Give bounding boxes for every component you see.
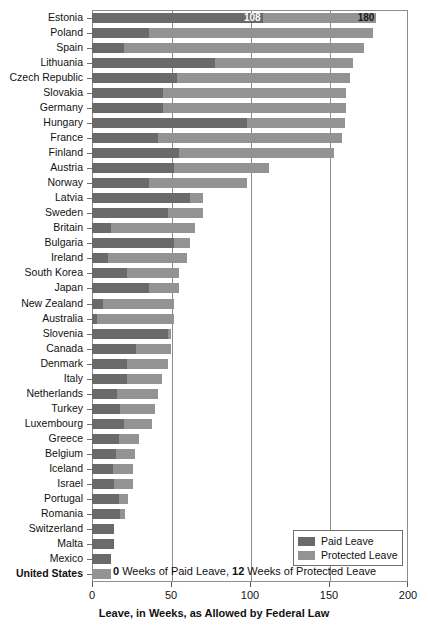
- legend-item-paid-leave: Paid Leave: [298, 534, 398, 548]
- bar-segment-paid: [92, 434, 119, 444]
- bar-segment-paid: [92, 73, 177, 83]
- table-row: [92, 43, 408, 53]
- bar-segment-paid: [92, 494, 119, 504]
- value-tick-label-200: 200: [399, 589, 417, 601]
- bar-segment-paid: [92, 283, 149, 293]
- category-label-united-states: United States: [16, 568, 83, 579]
- legend-swatch-paid-icon: [298, 537, 315, 546]
- bar-segment-paid: [92, 449, 116, 459]
- table-row: 108180: [92, 13, 408, 23]
- category-label-australia: Australia: [42, 313, 83, 324]
- bar-segment-paid: [92, 268, 127, 278]
- bar-segment-paid: [92, 253, 108, 263]
- table-row: [92, 193, 408, 203]
- value-tick-mark: [92, 582, 93, 587]
- bar-segment-paid: [92, 58, 215, 68]
- table-row: [92, 28, 408, 38]
- category-label-britain: Britain: [53, 222, 83, 233]
- us-protected-weeks-value: 12: [232, 565, 244, 577]
- legend-item-protected-leave: Protected Leave: [298, 548, 398, 562]
- category-label-new-zealand: New Zealand: [21, 298, 83, 309]
- bar-segment-protected: [92, 43, 364, 53]
- table-row: [92, 479, 408, 489]
- value-tick-mark: [250, 582, 251, 587]
- table-row: [92, 268, 408, 278]
- bar-segment-protected: [92, 299, 174, 309]
- bar-segment-paid: [92, 374, 127, 384]
- bar-segment-paid: [92, 88, 163, 98]
- value-axis-ticks: [92, 582, 408, 588]
- table-row: [92, 253, 408, 263]
- value-tick-mark: [329, 582, 330, 587]
- category-label-netherlands: Netherlands: [26, 388, 83, 399]
- category-label-norway: Norway: [47, 177, 83, 188]
- category-label-slovakia: Slovakia: [43, 87, 83, 98]
- category-label-italy: Italy: [64, 373, 83, 384]
- bar-segment-paid: [92, 223, 111, 233]
- bar-segment-paid: [92, 419, 124, 429]
- table-row: [92, 419, 408, 429]
- table-row: [92, 73, 408, 83]
- bars-container: 108180: [92, 10, 408, 582]
- table-row: [92, 329, 408, 339]
- category-label-germany: Germany: [40, 102, 83, 113]
- legend: Paid Leave Protected Leave: [293, 530, 403, 566]
- category-label-switzerland: Switzerland: [29, 523, 83, 534]
- bar-segment-paid: [92, 133, 158, 143]
- bar-segment-paid: [92, 479, 114, 489]
- table-row: [92, 118, 408, 128]
- category-label-bulgaria: Bulgaria: [44, 237, 83, 248]
- united-states-annotation: 0 Weeks of Paid Leave, 12 Weeks of Prote…: [113, 565, 376, 577]
- table-row: [92, 314, 408, 324]
- category-label-romania: Romania: [41, 508, 83, 519]
- table-row: [92, 359, 408, 369]
- bar-segment-paid: [92, 359, 127, 369]
- table-row: [92, 223, 408, 233]
- bar-segment-paid: [92, 329, 168, 339]
- bar-segment-paid: [92, 13, 263, 23]
- legend-swatch-protected-icon: [298, 551, 315, 560]
- table-row: [92, 148, 408, 158]
- bar-segment-paid: [92, 344, 136, 354]
- category-label-lithuania: Lithuania: [40, 57, 83, 68]
- table-row: [92, 103, 408, 113]
- bar-segment-paid: [92, 554, 111, 564]
- category-label-ireland: Ireland: [51, 252, 83, 263]
- category-label-south-korea: South Korea: [25, 267, 83, 278]
- bar-segment-paid: [92, 178, 149, 188]
- bar-segment-paid: [92, 118, 247, 128]
- bar-segment-paid: [92, 208, 168, 218]
- bar-value-label-paid: 108: [244, 13, 263, 23]
- category-label-finland: Finland: [49, 147, 83, 158]
- value-tick-label-0: 0: [89, 589, 95, 601]
- leave-policy-bar-chart: EstoniaPolandSpainLithuaniaCzech Republi…: [0, 0, 428, 642]
- category-label-israel: Israel: [57, 478, 83, 489]
- x-axis-title: Leave, in Weeks, as Allowed by Federal L…: [0, 607, 428, 619]
- bar-segment-paid: [92, 193, 190, 203]
- category-label-hungary: Hungary: [43, 117, 83, 128]
- table-row: [92, 494, 408, 504]
- category-label-poland: Poland: [50, 27, 83, 38]
- category-label-malta: Malta: [57, 538, 83, 549]
- bar-segment-paid: [92, 299, 103, 309]
- value-tick-label-150: 150: [320, 589, 338, 601]
- table-row: [92, 208, 408, 218]
- bar-segment-paid: [92, 163, 174, 173]
- bar-segment-paid: [92, 404, 120, 414]
- table-row: [92, 344, 408, 354]
- category-label-greece: Greece: [49, 433, 83, 444]
- bar-segment-protected: [92, 569, 111, 579]
- category-label-czech-republic: Czech Republic: [9, 72, 83, 83]
- bar-segment-paid: [92, 509, 120, 519]
- category-label-luxembourg: Luxembourg: [25, 418, 83, 429]
- bar-segment-paid: [92, 314, 97, 324]
- value-tick-label-50: 50: [165, 589, 177, 601]
- category-label-denmark: Denmark: [40, 358, 83, 369]
- bar-segment-paid: [92, 238, 174, 248]
- category-label-turkey: Turkey: [51, 403, 83, 414]
- table-row: [92, 434, 408, 444]
- category-axis-labels: EstoniaPolandSpainLithuaniaCzech Republi…: [0, 10, 92, 582]
- bar-segment-protected: [92, 314, 174, 324]
- bar-segment-paid: [92, 389, 117, 399]
- category-label-belgium: Belgium: [45, 448, 83, 459]
